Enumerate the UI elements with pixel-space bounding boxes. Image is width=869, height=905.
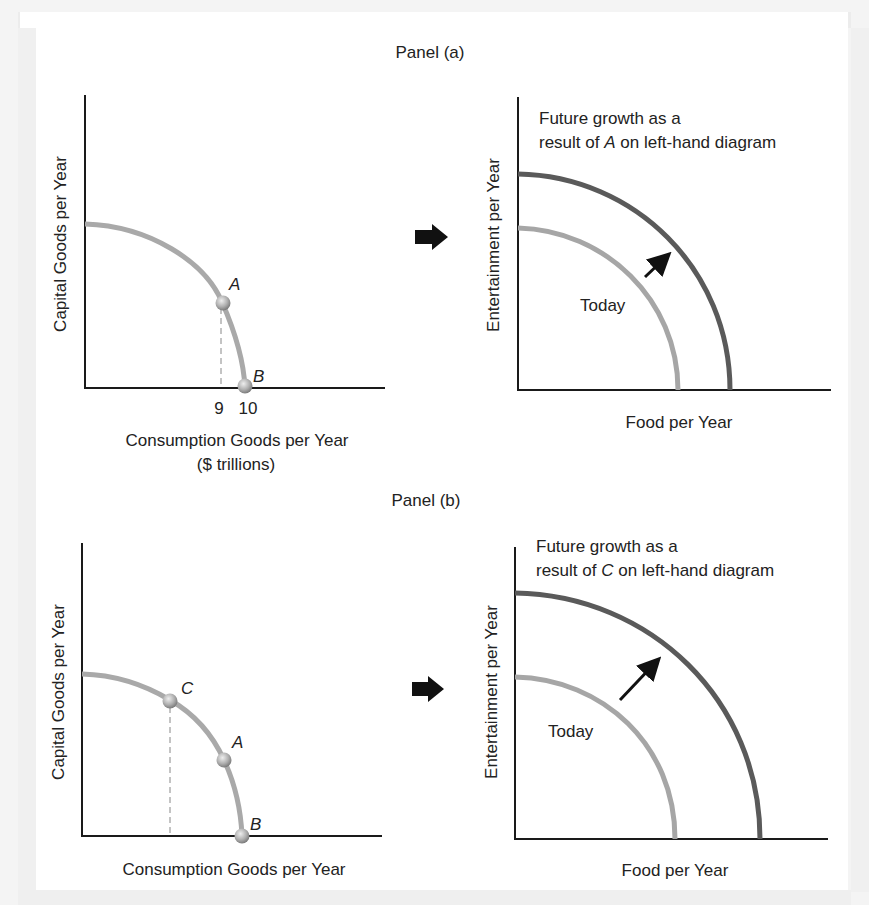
annotation-point: C: [601, 561, 614, 580]
today-label: Today: [580, 296, 626, 315]
annotation-pre: result of: [536, 561, 601, 580]
panel-a-title: Panel (a): [396, 43, 465, 62]
point-b-label: B: [253, 367, 264, 386]
point-b-marker: [235, 829, 250, 844]
annotation-line-1: Future growth as a: [536, 537, 678, 556]
annotation-post: on left-hand diagram: [613, 561, 774, 580]
figure: Panel (a) A B 9 10 Capital Goods per Yea…: [0, 0, 869, 905]
annotation-point: A: [603, 133, 615, 152]
annotation-pre: result of: [539, 133, 604, 152]
annotation-line-2: result of A on left-hand diagram: [539, 133, 776, 152]
annotation-post: on left-hand diagram: [616, 133, 777, 152]
annotation-line-2: result of C on left-hand diagram: [536, 561, 774, 580]
tick-10: 10: [239, 399, 258, 418]
y-axis-label: Entertainment per Year: [484, 158, 503, 332]
panel-b-title: Panel (b): [392, 491, 461, 510]
x-axis-label: Consumption Goods per Year: [125, 431, 348, 450]
point-b-label: B: [250, 815, 261, 834]
panel-a: Panel (a) A B 9 10 Capital Goods per Yea…: [51, 43, 831, 474]
x-axis-units: ($ trillions): [197, 455, 275, 474]
today-label: Today: [548, 722, 594, 741]
x-axis-label: Food per Year: [622, 861, 729, 880]
y-axis-label: Capital Goods per Year: [49, 604, 68, 780]
panel-b: Panel (b) C A B Capital Goods per Year C…: [49, 491, 828, 880]
point-c-marker: [163, 694, 178, 709]
tick-9: 9: [214, 399, 223, 418]
panel-b-left-chart: C A B Capital Goods per Year Consumption…: [49, 543, 382, 879]
y-axis-label: Entertainment per Year: [482, 605, 501, 779]
point-a-label: A: [231, 733, 243, 752]
right-arrow-icon: [412, 676, 444, 702]
x-axis-label: Food per Year: [626, 413, 733, 432]
future-curve: [518, 174, 730, 390]
point-c-label: C: [181, 679, 194, 698]
point-a-marker: [216, 296, 231, 311]
point-a-marker: [217, 753, 232, 768]
annotation-line-1: Future growth as a: [539, 109, 681, 128]
panel-a-left-chart: A B 9 10 Capital Goods per Year Consumpt…: [51, 95, 385, 474]
ppf-curve: [82, 674, 242, 836]
today-curve: [515, 677, 675, 839]
future-curve: [515, 593, 760, 839]
panel-b-right-chart: Today Future growth as a result of C on …: [482, 537, 828, 880]
right-arrow-icon: [415, 224, 448, 250]
y-axis-label: Capital Goods per Year: [51, 156, 70, 332]
growth-arrow-icon: [645, 258, 665, 277]
growth-arrow-icon: [620, 663, 655, 700]
x-axis-label: Consumption Goods per Year: [122, 860, 345, 879]
point-a-label: A: [228, 275, 240, 294]
panel-a-right-chart: Today Future growth as a result of A on …: [484, 97, 831, 432]
point-b-marker: [238, 379, 253, 394]
